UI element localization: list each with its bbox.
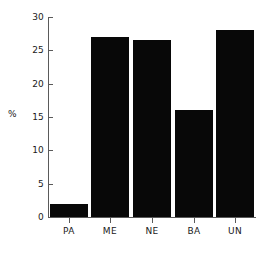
bar-un bbox=[216, 30, 254, 217]
bar-pa bbox=[50, 204, 88, 217]
bar-ne bbox=[133, 40, 171, 217]
bar-ba bbox=[175, 110, 213, 217]
bar-chart: % 051015202530PAMENEBAUN bbox=[0, 0, 266, 253]
bar-me bbox=[91, 37, 129, 217]
bars-layer bbox=[0, 0, 266, 253]
